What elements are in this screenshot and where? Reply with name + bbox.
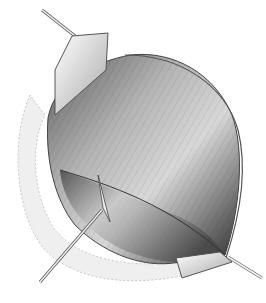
lower-right-retractor: [176, 252, 262, 278]
surgical-illustration: [0, 0, 266, 303]
illustration-svg: [0, 0, 266, 303]
